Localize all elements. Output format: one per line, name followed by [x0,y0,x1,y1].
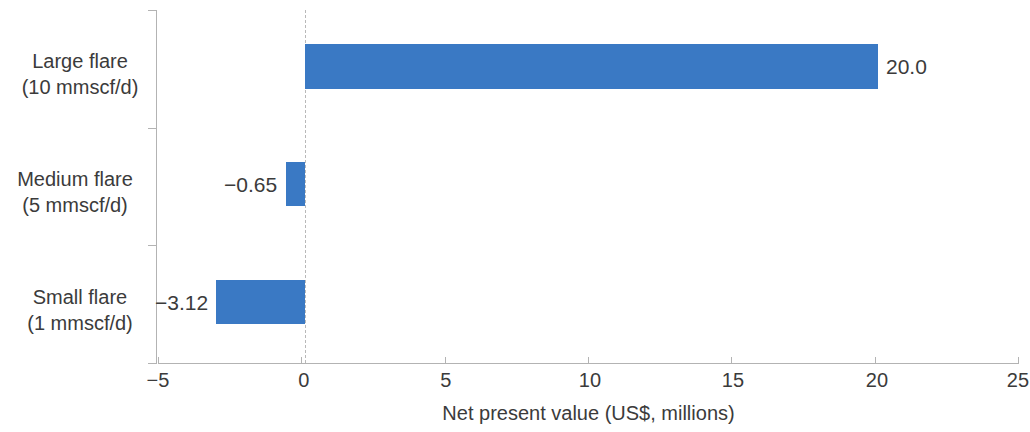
category-label-line1: Medium flare [0,166,150,192]
x-tick-label: 10 [560,369,620,392]
bar-large-flare [305,44,878,89]
y-axis-tick [148,128,157,129]
bar-medium-flare [286,162,305,206]
x-tick-label: 25 [988,369,1030,392]
x-tick-label: −5 [128,369,188,392]
y-axis-tick [148,245,157,246]
x-axis-tick [158,357,159,364]
category-label-line2: (10 mmscf/d) [5,74,155,100]
category-label-line1: Small flare [5,284,155,310]
x-tick-label: 0 [274,369,334,392]
category-label-large-flare: Large flare (10 mmscf/d) [5,48,155,100]
category-label-line1: Large flare [5,48,155,74]
x-tick-label: 15 [703,369,763,392]
x-tick-label: 20 [847,369,907,392]
bar-small-flare [216,280,305,324]
category-label-medium-flare: Medium flare (5 mmscf/d) [0,166,150,218]
chart-figure: −5 0 5 10 15 20 25 Large flare (10 mmscf… [0,0,1030,432]
x-tick-label: 5 [416,369,476,392]
x-axis-tick [875,357,876,364]
y-axis-tick [148,363,157,364]
x-axis-tick [301,357,302,364]
category-label-line2: (5 mmscf/d) [0,192,150,218]
bar-value-small-flare: −3.12 [155,292,208,313]
bar-value-medium-flare: −0.65 [224,174,277,195]
category-label-small-flare: Small flare (1 mmscf/d) [5,284,155,336]
x-axis-tick [588,357,589,364]
category-label-line2: (1 mmscf/d) [5,310,155,336]
y-axis-tick [148,10,157,11]
x-axis-tick [1018,357,1019,364]
plot-area: −5 0 5 10 15 20 25 Large flare (10 mmscf… [0,0,1030,432]
x-axis-tick [445,357,446,364]
x-axis-title: Net present value (US$, millions) [158,402,1019,425]
bar-value-large-flare: 20.0 [886,56,927,77]
x-axis-tick [731,357,732,364]
